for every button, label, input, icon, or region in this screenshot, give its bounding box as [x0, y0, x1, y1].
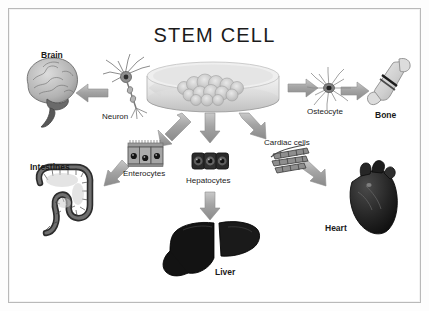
node-label-cardiac-cells: Cardiac cells [264, 139, 310, 147]
node-label-hepatocytes: Hepatocytes [186, 177, 230, 185]
brain-icon [27, 58, 77, 127]
stem-cell-differentiation-diagram: STEM CELL [0, 0, 429, 311]
liver-icon [163, 222, 260, 276]
node-label-neuron: Neuron [102, 113, 128, 121]
stem-cell-culture-dish-icon [147, 62, 279, 112]
intestines-icon [39, 167, 90, 233]
neuron-icon [103, 54, 150, 119]
arrow-osteocyte-to-bone [341, 82, 369, 100]
enterocytes-icon [128, 140, 163, 167]
node-label-osteocyte: Osteocyte [307, 108, 343, 116]
bone-icon [367, 58, 410, 104]
cardiac-cells-icon [271, 145, 309, 173]
node-label-intestines: Intestines [30, 163, 70, 172]
arrow-stemcell-to-enterocytes [158, 113, 191, 146]
arrow-stemcell-to-hepatocytes [200, 113, 220, 143]
heart-icon [350, 161, 397, 234]
node-label-enterocytes: Enterocytes [123, 170, 165, 178]
node-label-liver: Liver [215, 268, 235, 277]
arrow-neuron-to-brain [76, 84, 108, 102]
arrow-stemcell-to-cardiac-cells [239, 113, 266, 139]
node-label-bone: Bone [375, 111, 396, 120]
node-label-brain: Brain [41, 51, 63, 60]
diagram-artwork [0, 0, 429, 311]
hepatocytes-icon [192, 153, 229, 169]
node-label-heart: Heart [325, 224, 347, 233]
arrow-hepatocytes-to-liver [200, 192, 220, 220]
